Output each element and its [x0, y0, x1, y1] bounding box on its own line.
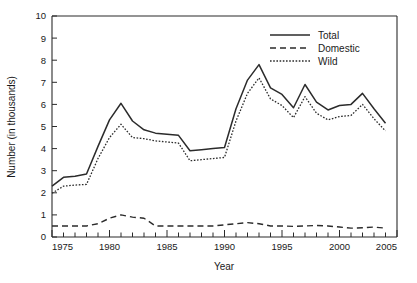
y-tick-label: 9 [41, 33, 46, 44]
x-tick-label: 1990 [214, 241, 235, 252]
x-tick-label: 1980 [99, 241, 120, 252]
y-axis-title: Number (in thousands) [6, 76, 17, 178]
y-tick-label: 3 [41, 165, 46, 176]
x-axis-tick-labels: 1975198019851990199520002005 [52, 241, 397, 252]
y-tick-label: 7 [41, 77, 46, 88]
x-tick-label: 2005 [376, 241, 397, 252]
legend-label-wild: Wild [318, 56, 337, 67]
y-tick-label: 0 [41, 231, 46, 242]
y-tick-label: 5 [41, 121, 46, 132]
x-tick-label: 2000 [329, 241, 350, 252]
x-tick-label: 1985 [156, 241, 177, 252]
chart-figure: 012345678910 197519801985199019952000200… [0, 0, 417, 283]
y-tick-label: 8 [41, 55, 46, 66]
y-tick-label: 1 [41, 209, 46, 220]
legend-label-domestic: Domestic [318, 43, 360, 54]
legend-label-total: Total [318, 30, 339, 41]
line-chart-svg: 012345678910 197519801985199019952000200… [0, 0, 417, 283]
y-tick-label: 6 [41, 99, 46, 110]
y-tick-label: 10 [35, 10, 46, 21]
y-tick-label: 2 [41, 187, 46, 198]
y-tick-label: 4 [41, 143, 46, 154]
x-tick-label: 1975 [52, 241, 73, 252]
x-axis-title: Year [214, 261, 235, 272]
x-tick-label: 1995 [271, 241, 292, 252]
